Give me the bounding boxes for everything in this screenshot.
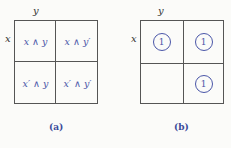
grid-b: 1 1 1: [140, 20, 224, 104]
circled-one: 1: [195, 33, 213, 51]
cell-bottom-right: 1: [183, 63, 224, 104]
caption-b: (b): [174, 122, 189, 132]
cell-x-prime-and-y: x′ ∧ y: [15, 63, 56, 104]
caption-a: (a): [49, 122, 63, 132]
x-label-a: x: [5, 33, 11, 44]
cell-x-and-y: x ∧ y: [15, 21, 56, 62]
cell-x-and-y-prime: x ∧ y′: [57, 21, 98, 62]
cell-top-left: 1: [141, 21, 182, 62]
cell-x-prime-and-y-prime: x′ ∧ y′: [57, 63, 98, 104]
grid-a: x ∧ y x ∧ y′ x′ ∧ y x′ ∧ y′: [14, 20, 98, 104]
x-label-b: x: [131, 33, 137, 44]
y-label-b: y: [158, 5, 164, 16]
circled-one: 1: [153, 33, 171, 51]
cell-bottom-left: [141, 63, 182, 104]
circled-one: 1: [195, 75, 213, 93]
cell-top-right: 1: [183, 21, 224, 62]
y-label-a: y: [33, 5, 39, 16]
